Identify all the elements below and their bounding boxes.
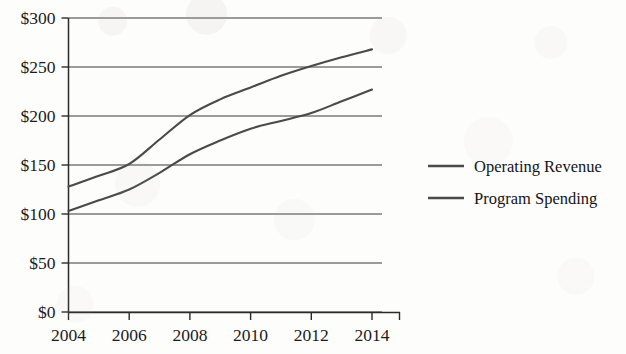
gridline-group <box>69 18 383 312</box>
legend-label-operating-revenue: Operating Revenue <box>474 157 602 176</box>
x-axis-tick-label: 2010 <box>233 325 268 345</box>
chart-canvas: $0$50$100$150$200$250$300 20042006200820… <box>0 0 626 354</box>
x-tick-label-group: 200420062008201020122014 <box>51 325 390 345</box>
chart-legend: Operating RevenueProgram Spending <box>428 157 602 208</box>
x-axis-tick-label: 2004 <box>51 325 86 345</box>
line-chart-figure: $0$50$100$150$200$250$300 20042006200820… <box>0 0 626 354</box>
x-axis-tick-label: 2014 <box>355 325 390 345</box>
y-tick-label-group: $0$50$100$150$200$250$300 <box>21 8 56 322</box>
y-axis-tick-label: $150 <box>21 155 56 175</box>
x-axis-tick-label: 2008 <box>172 325 207 345</box>
y-axis-tick-label: $250 <box>21 57 56 77</box>
series-line-program-spending <box>69 90 373 212</box>
y-axis-tick-label: $100 <box>21 204 56 224</box>
series-line-operating-revenue <box>69 49 373 186</box>
data-series-group <box>69 49 373 211</box>
x-axis-tick-label: 2006 <box>112 325 147 345</box>
x-axis-tick-label: 2012 <box>294 325 329 345</box>
legend-label-program-spending: Program Spending <box>474 189 597 208</box>
y-axis-tick-label: $300 <box>21 8 56 28</box>
y-axis-tick-label: $200 <box>21 106 56 126</box>
y-axis-tick-label: $50 <box>29 253 56 273</box>
y-axis-tick-label: $0 <box>38 302 56 322</box>
y-tick-group <box>62 18 69 312</box>
